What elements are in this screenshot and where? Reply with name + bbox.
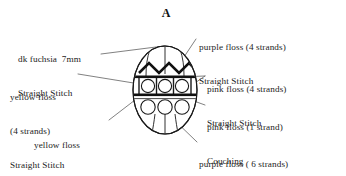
egg-illustration xyxy=(133,46,197,134)
annotation-yellow-knots-line1: yellow floss xyxy=(34,140,85,151)
egg-bar-lower xyxy=(133,94,197,97)
annotation-purple-floss-french-knots: purple floss ( 6 strands) French Knots xyxy=(199,137,288,176)
annotation-pink-straight-line1: pink floss (4 strands) xyxy=(207,84,287,95)
annotation-purple-knots-line1: purple floss ( 6 strands) xyxy=(199,159,288,170)
annotation-purple-straight-line1: purple floss (4 strands) xyxy=(199,42,286,53)
egg-bottom-circles xyxy=(141,100,189,114)
figure-title: A xyxy=(152,6,180,21)
annotation-pink-couching-line1: pink floss (1 strand) xyxy=(207,122,283,133)
annotation-yellow-floss-french-knots: yellow floss (4 strands) French Knots xyxy=(34,118,85,176)
annotation-yellow-straight-line1: yellow floss xyxy=(10,92,64,103)
figure-container: A dk fuchsia 7mm Straight Stitch yellow … xyxy=(0,0,346,176)
annotation-dk-fuchsia-line1: dk fuchsia 7mm xyxy=(18,54,81,65)
egg-middle-circles xyxy=(141,79,188,92)
annotation-yellow-knots-line2: (4 strands) xyxy=(34,174,85,176)
egg-bar-upper xyxy=(133,76,197,79)
